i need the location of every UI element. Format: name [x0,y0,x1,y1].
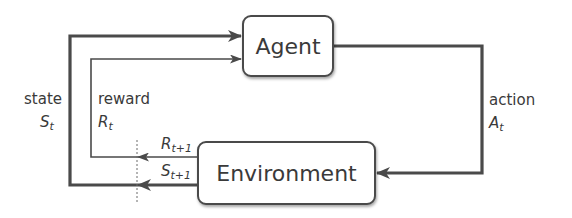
reward-label: reward [98,92,150,107]
reward-word: reward [98,90,150,108]
reward-subscript: t [108,120,112,133]
next-state-letter: S [161,162,171,180]
next-reward-letter: R [161,135,171,153]
action-word: action [489,91,535,109]
action-symbol: At [489,116,504,133]
action-label: action [489,93,535,108]
next-state-symbol: St+1 [161,164,191,181]
agent-node: Agent [242,15,334,77]
agent-label: Agent [255,34,320,59]
state-subscript: t [50,120,54,133]
state-symbol-letter: S [40,113,50,131]
environment-node: Environment [197,141,376,205]
action-symbol-letter: A [489,114,499,132]
reward-symbol: Rt [98,115,113,132]
next-reward-subscript: t+1 [171,142,192,155]
next-reward-symbol: Rt+1 [161,137,192,154]
state-symbol: St [40,115,54,132]
reward-symbol-letter: R [98,113,108,131]
state-word: state [24,90,62,108]
next-state-subscript: t+1 [171,169,192,182]
state-label: state [24,92,62,107]
action-subscript: t [499,121,503,134]
environment-label: Environment [216,161,356,186]
